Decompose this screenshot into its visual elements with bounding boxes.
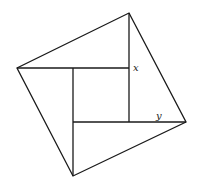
label-y: y xyxy=(155,110,162,121)
label-x: x xyxy=(133,62,139,73)
pythagorean-diagram: x y xyxy=(0,0,198,188)
outer-tilted-square xyxy=(17,13,186,176)
